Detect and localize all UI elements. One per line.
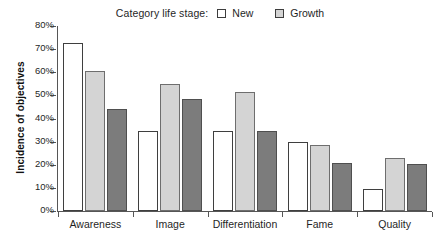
x-axis-label: Differentiation xyxy=(208,218,283,236)
legend-swatch-growth xyxy=(275,9,284,18)
x-axis-tick-mark xyxy=(208,212,209,217)
legend-label-new: New xyxy=(232,7,253,19)
bar-group xyxy=(282,26,357,211)
legend-entry-new: New xyxy=(217,7,253,19)
x-axis-label: Quality xyxy=(357,218,432,236)
bar-chart: Category life stage: New Growth Incidenc… xyxy=(0,0,440,248)
bar[interactable] xyxy=(182,99,202,211)
y-axis-tick-label: 60% xyxy=(35,65,54,76)
bar[interactable] xyxy=(288,142,308,211)
bar[interactable] xyxy=(235,92,255,211)
bar[interactable] xyxy=(213,131,233,211)
legend-title: Category life stage: xyxy=(116,7,208,19)
x-axis-tick-mark xyxy=(58,212,59,217)
legend-label-growth: Growth xyxy=(290,7,324,19)
y-axis-tick-label: 20% xyxy=(35,158,54,169)
x-axis-tick-mark xyxy=(282,212,283,217)
x-axis-label: Fame xyxy=(282,218,357,236)
bar-group xyxy=(208,26,283,211)
y-axis-tick-label: 50% xyxy=(35,88,54,99)
y-axis-tick-label: 10% xyxy=(35,181,54,192)
x-axis-tick-mark xyxy=(133,212,134,217)
bar-group xyxy=(357,26,432,211)
bar-group xyxy=(133,26,208,211)
y-axis-tick-label: 40% xyxy=(35,112,54,123)
bar-group xyxy=(58,26,133,211)
bar[interactable] xyxy=(257,131,277,211)
x-axis-tick-mark xyxy=(357,212,358,217)
bar[interactable] xyxy=(85,71,105,211)
bar[interactable] xyxy=(138,131,158,211)
bar[interactable] xyxy=(385,158,405,211)
x-axis-label: Image xyxy=(133,218,208,236)
y-axis-tick-label: 70% xyxy=(35,42,54,53)
bar-groups xyxy=(58,26,432,211)
y-axis-tick-label: 30% xyxy=(35,135,54,146)
bar[interactable] xyxy=(363,189,383,211)
y-axis-title: Incidence of objectives xyxy=(15,54,26,182)
bar[interactable] xyxy=(407,164,427,211)
x-axis-label: Awareness xyxy=(58,218,133,236)
bar[interactable] xyxy=(107,109,127,211)
chart-legend: Category life stage: New Growth xyxy=(0,4,440,22)
bar[interactable] xyxy=(63,43,83,211)
plot-area: 0%10%20%30%40%50%60%70%80% AwarenessImag… xyxy=(57,26,432,212)
bar[interactable] xyxy=(332,163,352,211)
y-axis-tick-label: 80% xyxy=(35,19,54,30)
y-axis-tick-label: 0% xyxy=(40,204,54,215)
x-axis-labels: AwarenessImageDifferentiationFameQuality xyxy=(58,218,432,236)
legend-entry-growth: Growth xyxy=(275,7,324,19)
bar[interactable] xyxy=(160,84,180,211)
x-axis-ticks xyxy=(58,212,432,217)
legend-swatch-new xyxy=(217,9,226,18)
bar[interactable] xyxy=(310,145,330,211)
x-axis-tick-mark xyxy=(432,212,433,217)
